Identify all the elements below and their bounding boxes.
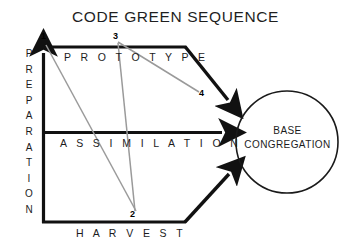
preparation-letter: P (21, 93, 37, 109)
preparation-letter: R (21, 124, 37, 140)
preparation-letter: A (21, 140, 37, 156)
band-label-assimilation: A S S I M I L A T I O N (60, 137, 241, 149)
preparation-letter: P (21, 46, 37, 62)
sequence-marker-4: 4 (199, 88, 204, 98)
base-congregation-label: BASE CONGREGATION (240, 124, 335, 152)
preparation-letter: E (21, 77, 37, 93)
preparation-letter: N (21, 202, 37, 218)
diagram-canvas: CODE GREEN SEQUENCE (0, 0, 351, 249)
preparation-letter: T (21, 155, 37, 171)
connector-3-to-2 (118, 43, 135, 211)
base-congregation-line-2: CONGREGATION (240, 138, 335, 152)
harvest-to-base-arrow (185, 174, 229, 222)
base-congregation-line-1: BASE (240, 124, 335, 138)
preparation-letter: A (21, 108, 37, 124)
sequence-marker-2: 2 (130, 209, 135, 219)
axis-label-preparation: P R E P A R A T I O N (21, 46, 37, 218)
sequence-marker-1: 1 (41, 31, 46, 41)
preparation-letter: O (21, 186, 37, 202)
preparation-letter: R (21, 62, 37, 78)
connector-1-to-2 (46, 45, 136, 211)
band-label-harvest: H A R V E S T (76, 227, 186, 239)
sequence-marker-3: 3 (113, 31, 118, 41)
band-label-prototype: P R O T O T Y P E (64, 51, 208, 63)
preparation-letter: I (21, 171, 37, 187)
